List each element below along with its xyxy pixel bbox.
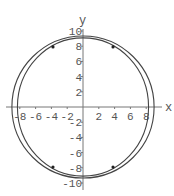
y-tick-label: 4: [75, 72, 82, 84]
intersection-point: [111, 165, 114, 168]
y-tick-label: -2: [69, 117, 82, 129]
y-tick-label: -6: [69, 148, 82, 160]
x-axis-label: x: [165, 101, 172, 115]
x-tick-label: -6: [29, 111, 42, 123]
x-tick-label: -4: [45, 111, 59, 123]
intersection-point: [51, 165, 54, 168]
intersection-point: [51, 45, 54, 48]
intersection-point: [111, 45, 114, 48]
y-tick-label: 2: [75, 87, 82, 99]
axes: x y: [6, 14, 172, 190]
y-tick-labels: -10-8-6-4-2246810: [62, 26, 83, 190]
x-tick-label: 2: [95, 111, 102, 123]
y-tick-label: -4: [69, 132, 83, 144]
y-tick-label: 6: [75, 56, 82, 68]
plot-area: x y -8-6-4-22468 -10-8-6-4-2246810: [0, 0, 174, 196]
y-tick-label: -8: [69, 163, 82, 175]
x-tick-label: 6: [127, 111, 134, 123]
x-tick-label: -8: [13, 111, 26, 123]
y-tick-label: -10: [62, 178, 82, 190]
x-tick-label: 4: [111, 111, 118, 123]
y-tick-label: 8: [75, 41, 82, 53]
